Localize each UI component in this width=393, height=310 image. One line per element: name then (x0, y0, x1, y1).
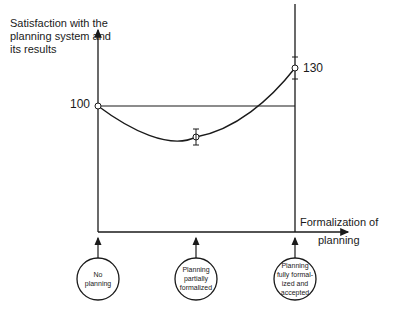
node-label-fully: Planning fully formal- ized and accepted (275, 261, 315, 297)
value-130-label: 130 (303, 62, 323, 75)
y-axis-label: Satisfaction with the planning system an… (10, 17, 120, 56)
value-100-label: 100 (70, 98, 90, 111)
node-label-no-planning: No planning (78, 270, 118, 288)
x-axis-label-line1: Formalization of (300, 216, 378, 229)
point-end (292, 65, 298, 71)
x-axis-label-line2: planning (318, 234, 360, 247)
node-label-partially: Planning partially formalized (176, 265, 216, 292)
point-start (95, 103, 101, 109)
